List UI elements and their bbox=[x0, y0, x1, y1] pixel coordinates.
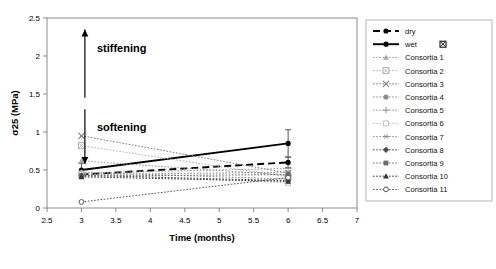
data-point-circle-open bbox=[286, 175, 291, 180]
x-tick-label: 4.5 bbox=[179, 216, 191, 225]
x-tick-label: 5.5 bbox=[248, 216, 260, 225]
data-point-circle-open bbox=[384, 187, 389, 192]
legend-label-consortia-11[interactable]: Consortia 11 bbox=[405, 185, 448, 194]
x-tick-label: 3 bbox=[79, 216, 84, 225]
series-line-wet bbox=[81, 143, 288, 170]
legend-label-consortia-4[interactable]: Consortia 4 bbox=[405, 93, 444, 102]
legend-label-consortia-1[interactable]: Consortia 1 bbox=[405, 53, 444, 62]
series-line-consortia-2 bbox=[81, 146, 288, 177]
legend-label-consortia-9[interactable]: Consortia 9 bbox=[405, 159, 444, 168]
data-point-circle-filled bbox=[286, 141, 291, 146]
legend-label-consortia-6[interactable]: Consortia 6 bbox=[405, 119, 444, 128]
legend-label-wet[interactable]: wet bbox=[404, 40, 418, 49]
series-line-consortia-11 bbox=[81, 178, 288, 202]
data-point-boxed-x bbox=[383, 68, 389, 74]
annotation-label-stiffening: stiffening bbox=[97, 42, 147, 54]
y-tick-label: 1 bbox=[36, 128, 41, 137]
x-tick-label: 2.5 bbox=[41, 216, 53, 225]
data-point-square-open bbox=[384, 121, 389, 126]
x-tick-label: 7 bbox=[355, 216, 360, 225]
legend-label-consortia-2[interactable]: Consortia 2 bbox=[405, 67, 444, 76]
series-line-consortia-3 bbox=[81, 136, 288, 173]
legend-label-dry[interactable]: dry bbox=[405, 27, 416, 36]
y-tick-label: 0 bbox=[36, 204, 41, 213]
legend-label-consortia-10[interactable]: Consortia 10 bbox=[405, 172, 448, 181]
plot-frame bbox=[47, 18, 357, 208]
y-tick-label: 1.5 bbox=[29, 90, 41, 99]
y-tick-label: 2.5 bbox=[29, 14, 41, 23]
chart-canvas: 2.533.544.555.566.5700.511.522.5Time (mo… bbox=[0, 0, 496, 269]
legend-label-consortia-8[interactable]: Consortia 8 bbox=[405, 146, 444, 155]
data-point-circle-filled bbox=[383, 94, 388, 99]
data-point-square-filled bbox=[384, 161, 389, 166]
x-tick-label: 6 bbox=[286, 216, 291, 225]
y-tick-label: 2 bbox=[36, 52, 41, 61]
data-point-circle-filled bbox=[383, 28, 388, 33]
y-axis-title: σ25 (MPa) bbox=[9, 90, 20, 136]
x-tick-label: 3.5 bbox=[110, 216, 122, 225]
y-tick-label: 0.5 bbox=[29, 166, 41, 175]
legend-label-consortia-3[interactable]: Consortia 3 bbox=[405, 80, 444, 89]
chart-figure: 2.533.544.555.566.5700.511.522.5Time (mo… bbox=[0, 0, 496, 269]
data-point-circle-filled bbox=[383, 42, 388, 47]
data-point-boxed-x bbox=[78, 143, 84, 149]
x-tick-label: 4 bbox=[148, 216, 153, 225]
data-point-boxed-x bbox=[440, 41, 446, 47]
annotation-arrow-head bbox=[81, 29, 88, 36]
x-tick-label: 5 bbox=[217, 216, 222, 225]
x-axis-title: Time (months) bbox=[169, 232, 234, 243]
legend-label-consortia-5[interactable]: Consortia 5 bbox=[405, 106, 444, 115]
data-point-circle-filled bbox=[286, 160, 291, 165]
data-point-x bbox=[78, 133, 84, 139]
annotation-label-softening: softening bbox=[97, 121, 147, 133]
data-point-circle-open bbox=[79, 200, 84, 205]
legend-label-consortia-7[interactable]: Consortia 7 bbox=[405, 133, 444, 142]
x-tick-label: 6.5 bbox=[317, 216, 329, 225]
